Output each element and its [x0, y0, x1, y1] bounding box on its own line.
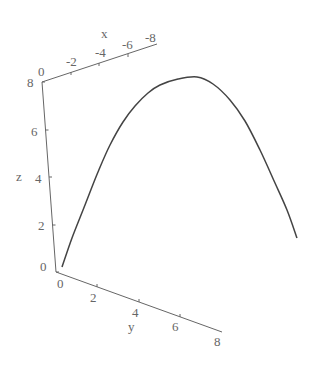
trajectory-curve [62, 77, 297, 267]
x-tick-label: -6 [122, 37, 133, 52]
y-tick-label: 0 [57, 276, 64, 291]
x-tick-label: -4 [95, 45, 106, 60]
y-tick-label: 8 [214, 334, 221, 349]
z-axis-label: z [16, 169, 22, 184]
y-axis-label: y [128, 319, 135, 334]
x-axis-label: x [101, 26, 108, 41]
z-tick-label: 2 [38, 218, 45, 233]
z-tick-label: 0 [40, 259, 47, 274]
x-tick-label: 0 [38, 64, 45, 79]
plot-canvas: 8 6 4 2 0 z 0 -2 -4 -6 -8 x 0 2 4 6 8 y [0, 0, 315, 368]
y-tick-label: 6 [172, 319, 179, 334]
y-tick-label: 2 [90, 290, 97, 305]
x-tick-label: -2 [66, 54, 77, 69]
z-tick-label: 6 [31, 124, 38, 139]
z-tick-label: 4 [35, 171, 42, 186]
x-tick-label: -8 [145, 30, 156, 45]
z-tick-label: 8 [27, 75, 34, 90]
y-tick-label: 4 [132, 305, 139, 320]
